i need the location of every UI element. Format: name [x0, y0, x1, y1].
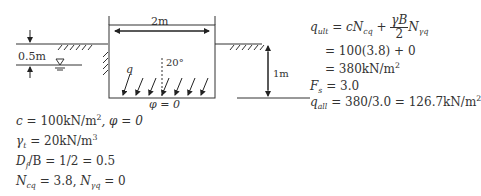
inclined-load-arrows [123, 74, 208, 95]
load-label: q [126, 64, 133, 75]
ground-hatch-right [230, 45, 264, 50]
given-gamma: γt = 20kN/m3 [16, 135, 97, 147]
ground-hatch-left [58, 45, 92, 50]
given-df: Df/B = 1/2 = 0.5 [16, 155, 115, 167]
solution-line-3: = 380kN/m2 [325, 63, 400, 75]
solution-line-1: qult = cNcq + γB2Nγq [310, 14, 428, 40]
angle-label: 20° [166, 58, 184, 68]
solution-line-2: = 100(3.8) + 0 [325, 45, 416, 57]
fraction: γB2 [390, 14, 408, 40]
water-depth-label: 0.5m [18, 51, 46, 62]
wall-hatch [103, 52, 108, 75]
solution-line-5: qall = 380/3.0 = 126.7kN/m2 [310, 96, 481, 108]
given-n: Ncq = 3.8, Nγq = 0 [16, 175, 126, 187]
width-label: 2m [151, 16, 168, 27]
solution-line-4: Fs = 3.0 [310, 80, 359, 92]
phi-base-label: φ = 0 [149, 99, 180, 110]
given-c: c = 100kN/m2, φ = 0 [16, 115, 143, 127]
embedment-label: 1m [273, 69, 289, 79]
